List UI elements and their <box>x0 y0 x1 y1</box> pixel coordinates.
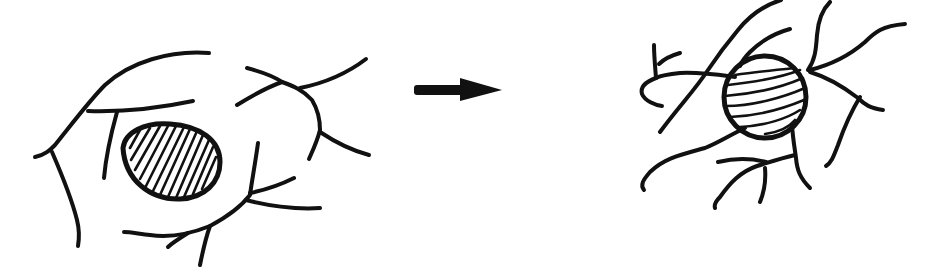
before-cell <box>35 53 369 265</box>
after-cell <box>642 0 905 208</box>
transformation-arrow-icon <box>414 78 502 101</box>
transformation-diagram <box>0 0 934 272</box>
